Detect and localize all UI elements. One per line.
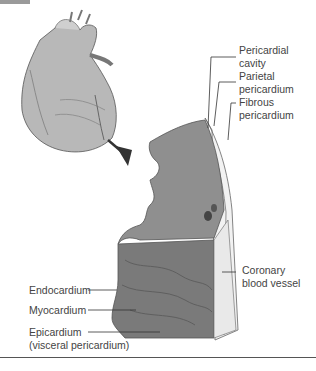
arrow-icon — [108, 140, 132, 166]
label-myocardium: Myocardium — [29, 304, 86, 317]
label-fibrous-pericardium: Fibrous pericardium — [239, 96, 294, 122]
label-endocardium: Endocardium — [29, 284, 91, 297]
label-coronary-blood-vessel: Coronary blood vessel — [242, 264, 300, 290]
whole-heart-icon — [22, 10, 117, 152]
bottom-divider — [0, 357, 316, 358]
label-pericardial-cavity: Pericardial cavity — [239, 44, 289, 70]
label-parietal-pericardium: Parietal pericardium — [239, 70, 294, 96]
label-epicardium: Epicardium (visceral pericardium) — [29, 326, 129, 352]
